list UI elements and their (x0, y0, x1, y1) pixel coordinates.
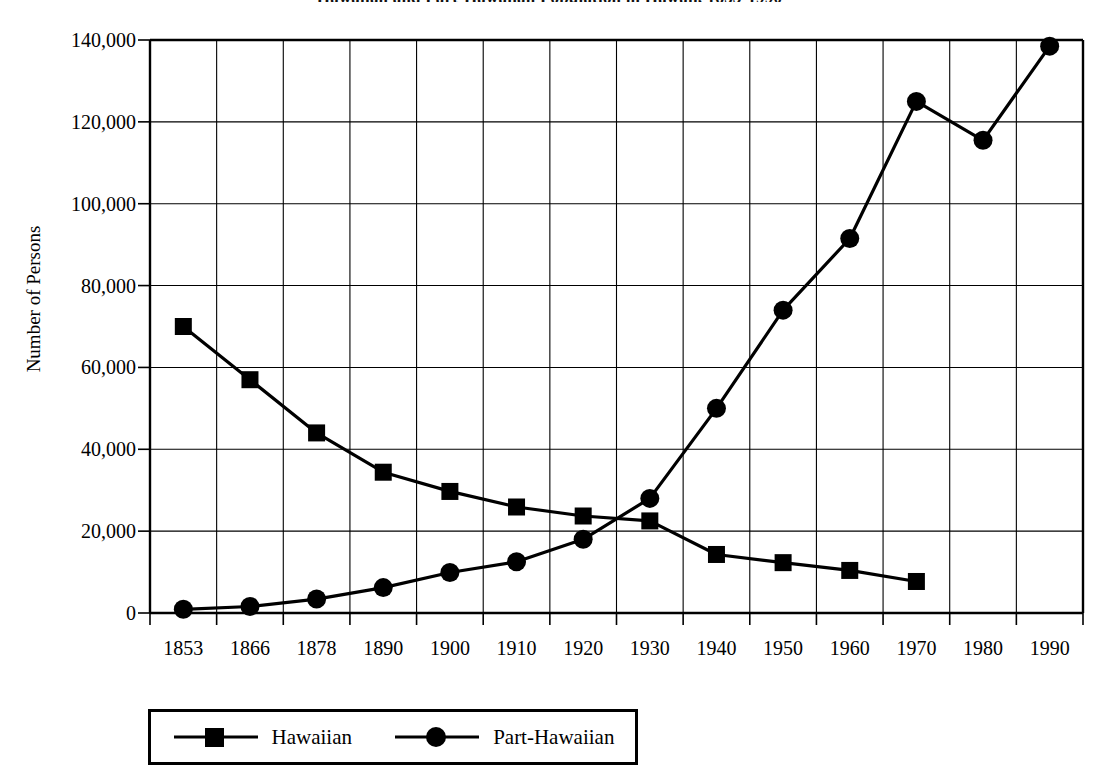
data-point-part-hawaiian[interactable] (640, 489, 659, 508)
data-point-hawaiian[interactable] (241, 371, 258, 388)
data-point-hawaiian[interactable] (641, 512, 658, 529)
data-point-part-hawaiian[interactable] (507, 552, 526, 571)
data-point-part-hawaiian[interactable] (974, 131, 993, 150)
data-point-part-hawaiian[interactable] (840, 229, 859, 248)
data-point-part-hawaiian[interactable] (374, 578, 393, 597)
line-chart: Hawaiian and Part-Hawaiian Population in… (0, 0, 1099, 777)
legend-entry-part-hawaiian[interactable]: Part-Hawaiian (393, 725, 614, 750)
data-point-hawaiian[interactable] (441, 483, 458, 500)
data-point-part-hawaiian[interactable] (574, 530, 593, 549)
data-point-hawaiian[interactable] (508, 498, 525, 515)
data-point-part-hawaiian[interactable] (707, 399, 726, 418)
data-point-part-hawaiian[interactable] (774, 301, 793, 320)
circle-marker-icon (393, 725, 481, 749)
data-point-hawaiian[interactable] (775, 554, 792, 571)
legend-entry-hawaiian[interactable]: Hawaiian (172, 725, 352, 750)
chart-legend: Hawaiian Part-Hawaiian (148, 709, 638, 765)
plot-area (0, 0, 1099, 777)
data-point-hawaiian[interactable] (575, 507, 592, 524)
data-point-hawaiian[interactable] (175, 318, 192, 335)
legend-label-hawaiian: Hawaiian (272, 725, 352, 750)
data-point-part-hawaiian[interactable] (240, 597, 259, 616)
data-point-hawaiian[interactable] (841, 562, 858, 579)
data-point-part-hawaiian[interactable] (307, 590, 326, 609)
data-point-part-hawaiian[interactable] (440, 563, 459, 582)
data-point-part-hawaiian[interactable] (174, 600, 193, 619)
data-point-part-hawaiian[interactable] (1040, 37, 1059, 56)
data-point-part-hawaiian[interactable] (907, 92, 926, 111)
square-marker-icon (172, 725, 260, 749)
data-point-hawaiian[interactable] (908, 573, 925, 590)
data-point-hawaiian[interactable] (308, 424, 325, 441)
legend-label-part-hawaiian: Part-Hawaiian (493, 725, 614, 750)
data-point-hawaiian[interactable] (375, 464, 392, 481)
data-point-hawaiian[interactable] (708, 546, 725, 563)
